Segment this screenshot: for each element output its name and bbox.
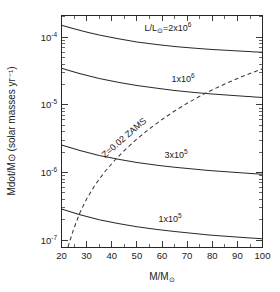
x-axis-top-ticks <box>74 16 250 22</box>
y-tick-label: 10-7 <box>41 234 58 246</box>
x-tick-label: 30 <box>81 250 92 261</box>
curve-annotations: L/L⊙=2x106 1x106 3x105 1x105 Z=0.02 ZAMS <box>100 21 195 224</box>
scatter-line-plot: 20 30 40 50 60 70 80 90 100 10-4 10-5 10… <box>0 0 280 292</box>
curve-1e6 <box>62 68 263 97</box>
y-axis-minor-ticks <box>62 17 263 220</box>
y-axis-title: Mdot/M⊙ (solar masses yr⁻¹) <box>6 66 17 195</box>
x-tick-label: 60 <box>157 250 168 261</box>
figure-container: 20 30 40 50 60 70 80 90 100 10-4 10-5 10… <box>0 0 280 292</box>
y-tick-label: 10-6 <box>41 166 58 178</box>
annotation-3e5: 3x105 <box>164 148 188 160</box>
x-tick-label: 90 <box>232 250 243 261</box>
annotation-L-2e6: L/L⊙=2x106 <box>145 21 192 34</box>
x-tick-label: 70 <box>182 250 193 261</box>
annotation-1e6: 1x106 <box>171 72 195 84</box>
x-tick-label: 40 <box>107 250 118 261</box>
annotation-1e5: 1x105 <box>158 212 182 224</box>
x-tick-label: 100 <box>255 250 271 261</box>
curve-3e5 <box>62 145 263 174</box>
y-axis-major-ticks <box>62 37 263 240</box>
x-axis-title: M/M⊙ <box>149 271 174 283</box>
x-tick-label: 20 <box>56 250 67 261</box>
y-tick-label: 10-4 <box>41 31 58 43</box>
x-axis-major-ticks <box>62 241 263 247</box>
y-tick-labels: 10-4 10-5 10-6 10-7 <box>41 31 58 246</box>
x-tick-label: 50 <box>132 250 143 261</box>
x-tick-label: 80 <box>207 250 218 261</box>
annotation-zams-z002: Z=0.02 ZAMS <box>100 116 149 160</box>
x-tick-labels: 20 30 40 50 60 70 80 90 100 <box>56 250 270 261</box>
y-tick-label: 10-5 <box>41 98 58 110</box>
